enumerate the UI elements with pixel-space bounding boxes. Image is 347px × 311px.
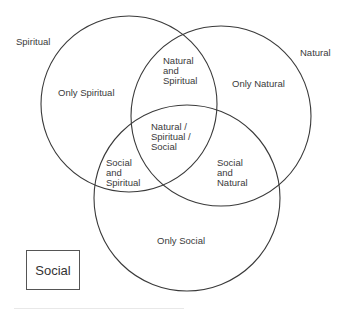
natural-set-label: Natural — [300, 48, 331, 58]
region-line: Natural — [217, 178, 248, 188]
only-natural-label: Only Natural — [232, 79, 285, 89]
spiritual-set-label: Spiritual — [16, 37, 50, 47]
divider — [14, 308, 184, 309]
only-spiritual-label: Only Spiritual — [58, 88, 115, 98]
social-and-spiritual-label: Social and Spiritual — [106, 158, 140, 188]
region-line: Spiritual — [106, 178, 140, 188]
natural-and-spiritual-label: Natural and Spiritual — [163, 56, 197, 86]
region-line: Spiritual — [163, 76, 197, 86]
social-legend-box: Social — [26, 250, 80, 290]
region-line: Social — [151, 142, 191, 152]
all-three-label: Natural / Spiritual / Social — [151, 122, 191, 152]
only-social-label: Only Social — [157, 236, 205, 246]
social-and-natural-label: Social and Natural — [217, 158, 248, 188]
social-legend-label: Social — [35, 263, 70, 278]
